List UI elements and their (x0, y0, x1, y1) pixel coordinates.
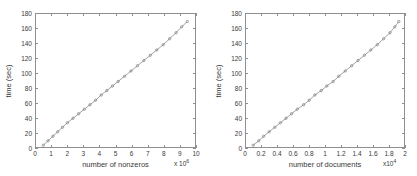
y-tick-right-1-0 (402, 148, 405, 149)
y-tick-label-1-6: 120 (218, 55, 242, 62)
x-tick-0-4 (99, 145, 100, 148)
x-tick-top-1-8 (373, 13, 374, 16)
y-tick-label-0-9: 180 (8, 10, 32, 17)
x-tick-label-1-2: 0.4 (272, 150, 281, 157)
y-tick-0-0 (35, 148, 38, 149)
x-tick-top-0-10 (196, 13, 197, 16)
y-tick-right-0-4 (193, 88, 196, 89)
x-tick-0-2 (67, 145, 68, 148)
x-tick-0-6 (132, 145, 133, 148)
x-tick-top-1-1 (261, 13, 262, 16)
x-tick-label-0-10: 10 (192, 150, 199, 157)
y-tick-1-4 (245, 88, 248, 89)
x-tick-label-0-8: 8 (162, 150, 166, 157)
y-tick-right-1-4 (402, 88, 405, 89)
x-tick-label-1-5: 1 (323, 150, 327, 157)
y-tick-0-5 (35, 73, 38, 74)
y-tick-label-1-0: 0 (218, 145, 242, 152)
y-tick-label-0-1: 20 (8, 130, 32, 137)
y-tick-0-6 (35, 58, 38, 59)
x-tick-top-1-4 (309, 13, 310, 16)
series-line-1 (253, 22, 399, 146)
x-tick-1-1 (261, 145, 262, 148)
x-tick-label-0-4: 4 (98, 150, 102, 157)
x-tick-top-1-7 (357, 13, 358, 16)
x-axis-exponent-1: x104 (383, 158, 396, 167)
y-tick-0-9 (35, 13, 38, 14)
x-tick-top-0-2 (67, 13, 68, 16)
x-tick-1-5 (325, 145, 326, 148)
x-tick-top-0-1 (51, 13, 52, 16)
y-tick-label-0-2: 40 (8, 115, 32, 122)
y-axis-title-1: time (sec) (214, 64, 223, 97)
plot-area-documents (245, 13, 405, 148)
y-tick-right-0-6 (193, 58, 196, 59)
x-tick-0-3 (83, 145, 84, 148)
y-tick-label-0-3: 60 (8, 100, 32, 107)
y-tick-label-1-9: 180 (218, 10, 242, 17)
x-tick-label-0-3: 3 (81, 150, 85, 157)
x-tick-top-1-5 (325, 13, 326, 16)
y-tick-right-1-9 (402, 13, 405, 14)
y-tick-label-0-0: 0 (8, 145, 32, 152)
x-tick-label-0-5: 5 (114, 150, 118, 157)
x-tick-1-4 (309, 145, 310, 148)
y-axis-title-0: time (sec) (4, 64, 13, 97)
x-axis-title-1: number of documents (289, 160, 362, 169)
x-tick-label-0-9: 9 (178, 150, 182, 157)
x-tick-0-5 (116, 145, 117, 148)
x-tick-label-1-8: 1.6 (368, 150, 377, 157)
figure-two-panel-timing-plots: 012345678910020406080100120140160180numb… (0, 0, 417, 176)
y-tick-label-0-6: 120 (8, 55, 32, 62)
data-series-documents (246, 14, 406, 149)
x-tick-top-1-3 (293, 13, 294, 16)
y-tick-right-0-8 (193, 28, 196, 29)
x-tick-label-0-6: 6 (130, 150, 134, 157)
y-tick-1-9 (245, 13, 248, 14)
x-tick-label-0-2: 2 (65, 150, 69, 157)
y-tick-right-0-7 (193, 43, 196, 44)
y-tick-label-1-3: 60 (218, 100, 242, 107)
x-tick-top-0-6 (132, 13, 133, 16)
y-tick-label-1-1: 20 (218, 130, 242, 137)
x-tick-label-1-7: 1.4 (352, 150, 361, 157)
x-tick-top-0-9 (180, 13, 181, 16)
chart-panel-documents: 00.20.40.60.811.21.41.61.820204060801001… (209, 0, 417, 176)
x-tick-0-7 (148, 145, 149, 148)
y-tick-1-1 (245, 133, 248, 134)
x-tick-top-1-9 (389, 13, 390, 16)
x-axis-title-0: number of nonzeros (82, 160, 149, 169)
x-tick-label-1-10: 2 (403, 150, 407, 157)
x-tick-top-1-2 (277, 13, 278, 16)
x-tick-1-8 (373, 145, 374, 148)
x-tick-top-1-10 (405, 13, 406, 16)
x-tick-top-0-4 (99, 13, 100, 16)
y-tick-right-0-9 (193, 13, 196, 14)
y-tick-right-1-7 (402, 43, 405, 44)
x-tick-label-1-9: 1.8 (384, 150, 393, 157)
x-tick-top-0-5 (116, 13, 117, 16)
y-tick-label-1-7: 140 (218, 40, 242, 47)
x-tick-0-10 (196, 145, 197, 148)
y-tick-1-8 (245, 28, 248, 29)
x-exponent-power-1: 4 (393, 158, 396, 164)
y-tick-right-0-0 (193, 148, 196, 149)
x-tick-label-1-6: 1.2 (336, 150, 345, 157)
x-tick-top-1-6 (341, 13, 342, 16)
y-tick-1-6 (245, 58, 248, 59)
y-tick-right-0-5 (193, 73, 196, 74)
x-axis-exponent-0: x 106 (174, 158, 189, 167)
y-tick-0-1 (35, 133, 38, 134)
x-tick-1-3 (293, 145, 294, 148)
x-exponent-power-0: 6 (186, 158, 189, 164)
x-tick-1-6 (341, 145, 342, 148)
y-tick-1-3 (245, 103, 248, 104)
y-tick-right-0-1 (193, 133, 196, 134)
y-tick-right-1-1 (402, 133, 405, 134)
y-tick-right-1-2 (402, 118, 405, 119)
x-tick-top-0-8 (164, 13, 165, 16)
y-tick-label-1-8: 160 (218, 25, 242, 32)
y-tick-0-3 (35, 103, 38, 104)
y-tick-right-1-6 (402, 58, 405, 59)
y-tick-right-1-5 (402, 73, 405, 74)
